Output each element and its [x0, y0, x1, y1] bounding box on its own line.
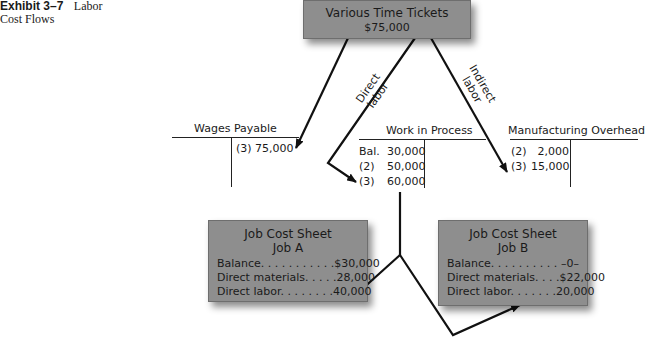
job-row-direct-labor: Direct labor. . . . . . . 20,000: [447, 285, 579, 299]
arrow-to-wages-payable: [296, 38, 348, 148]
entry-label: (3): [359, 174, 387, 189]
row-amount: 28,000: [337, 271, 376, 285]
job-row-balance: Balance. . . . . . . . . . –0–: [447, 257, 579, 271]
job-row-balance: Balance. . . . . . . . . . . $30,000: [217, 257, 359, 271]
job-cost-sheet-title: Job Cost Sheet: [439, 227, 587, 241]
entry-credit-1: (3) 75,000: [236, 141, 294, 156]
entry-debit-3: (3)60,000: [359, 174, 425, 189]
entry-debit-1: Bal.30,000: [359, 144, 425, 159]
job-name: Job A: [209, 241, 367, 255]
row-label: Direct materials. . . .: [447, 271, 560, 285]
entry-debit-2: (2)50,000: [359, 159, 425, 174]
t-account-title: Work in Process: [386, 124, 473, 137]
job-cost-sheet-title: Job Cost Sheet: [209, 227, 367, 241]
t-account-hline: [510, 139, 638, 140]
row-label: Balance. . . . . . . . . .: [447, 257, 557, 271]
entry-label: (3): [236, 142, 252, 155]
t-account-title: Manufacturing Overhead: [508, 124, 645, 137]
t-account-hline: [359, 139, 486, 140]
job-cost-sheet-a: Job Cost Sheet Job A Balance. . . . . . …: [208, 220, 368, 302]
entry-debit-1: (2)2,000: [511, 144, 569, 159]
row-amount: $30,000: [334, 257, 380, 271]
row-label: Direct materials. . . . .: [217, 271, 337, 285]
row-amount: $22,000: [560, 271, 606, 285]
t-account-hline: [172, 137, 299, 138]
row-amount: 20,000: [556, 285, 595, 299]
row-label: Direct labor. . . . . . .: [447, 285, 556, 299]
job-row-direct-materials: Direct materials. . . . . 28,000: [217, 271, 359, 285]
entry-amount: 50,000: [387, 159, 425, 174]
row-label: Direct labor. . . . . . . .: [217, 285, 333, 299]
row-label: Balance. . . . . . . . . . .: [217, 257, 334, 271]
job-row-direct-labor: Direct labor. . . . . . . . 40,000: [217, 285, 359, 299]
entry-amount: 75,000: [255, 142, 294, 155]
entry-amount: 2,000: [531, 144, 569, 159]
entry-amount: 60,000: [387, 174, 425, 189]
entry-label: (2): [511, 144, 531, 159]
arrow-indirect-labor: [431, 38, 507, 172]
t-account-vline: [570, 139, 571, 187]
entry-label: (2): [359, 159, 387, 174]
t-account-title: Wages Payable: [194, 122, 277, 135]
entry-debit-2: (3)15,000: [511, 159, 569, 174]
job-cost-sheet-b: Job Cost Sheet Job B Balance. . . . . . …: [438, 220, 588, 306]
entry-label: Bal.: [359, 144, 387, 159]
job-name: Job B: [439, 241, 587, 255]
time-tickets-amount: $75,000: [304, 21, 470, 34]
job-row-direct-materials: Direct materials. . . . $22,000: [447, 271, 579, 285]
entry-amount: 15,000: [531, 159, 569, 174]
row-amount: 40,000: [333, 285, 372, 299]
time-tickets-box: Various Time Tickets $75,000: [303, 0, 471, 39]
entry-amount: 30,000: [387, 144, 425, 159]
row-amount: –0–: [561, 257, 579, 271]
entry-label: (3): [511, 159, 531, 174]
time-tickets-title: Various Time Tickets: [304, 6, 470, 21]
t-account-vline: [231, 137, 232, 187]
